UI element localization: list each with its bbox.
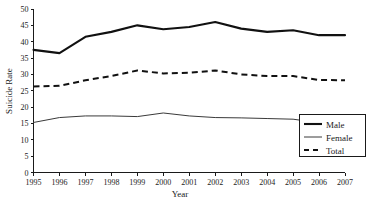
y-tick-label: 35	[21, 54, 29, 63]
x-tick-label: 2001	[181, 178, 197, 187]
x-tick-label: 2006	[311, 178, 327, 187]
y-axis-title: Suicide Rate	[4, 68, 14, 114]
x-tick-label: 1998	[103, 178, 119, 187]
x-tick-label: 2005	[285, 178, 301, 187]
y-tick-label: 30	[21, 70, 29, 79]
y-tick-label: 10	[21, 136, 29, 145]
y-tick-label: 25	[21, 87, 29, 96]
x-tick-label: 2004	[259, 178, 275, 187]
x-tick-label: 1995	[26, 178, 42, 187]
legend-label-male: Male	[326, 120, 345, 130]
y-tick-label: 5	[25, 152, 29, 161]
x-axis-title: Year	[172, 189, 189, 199]
y-tick-label: 50	[21, 5, 29, 14]
x-tick-label: 2002	[207, 178, 223, 187]
x-tick-label: 1997	[77, 178, 93, 187]
x-tick-label: 2003	[233, 178, 249, 187]
legend-label-total: Total	[326, 146, 345, 156]
legend-label-female: Female	[326, 133, 353, 143]
x-tick-label: 2000	[155, 178, 171, 187]
chart-canvas: 05101520253035404550 1995199619971998199…	[0, 0, 369, 201]
x-tick-label: 1999	[129, 178, 145, 187]
x-tick-label: 2007	[337, 178, 353, 187]
y-tick-label: 45	[21, 21, 29, 30]
y-tick-label: 15	[21, 119, 29, 128]
y-tick-label: 0	[25, 169, 29, 178]
chart-legend: MaleFemaleTotal	[300, 115, 366, 157]
x-tick-label: 1996	[51, 178, 67, 187]
y-tick-label: 20	[21, 103, 29, 112]
line-chart-suicide-rate-by-year: 05101520253035404550 1995199619971998199…	[0, 0, 369, 201]
y-tick-label: 40	[21, 38, 29, 47]
chart-background	[0, 0, 369, 201]
